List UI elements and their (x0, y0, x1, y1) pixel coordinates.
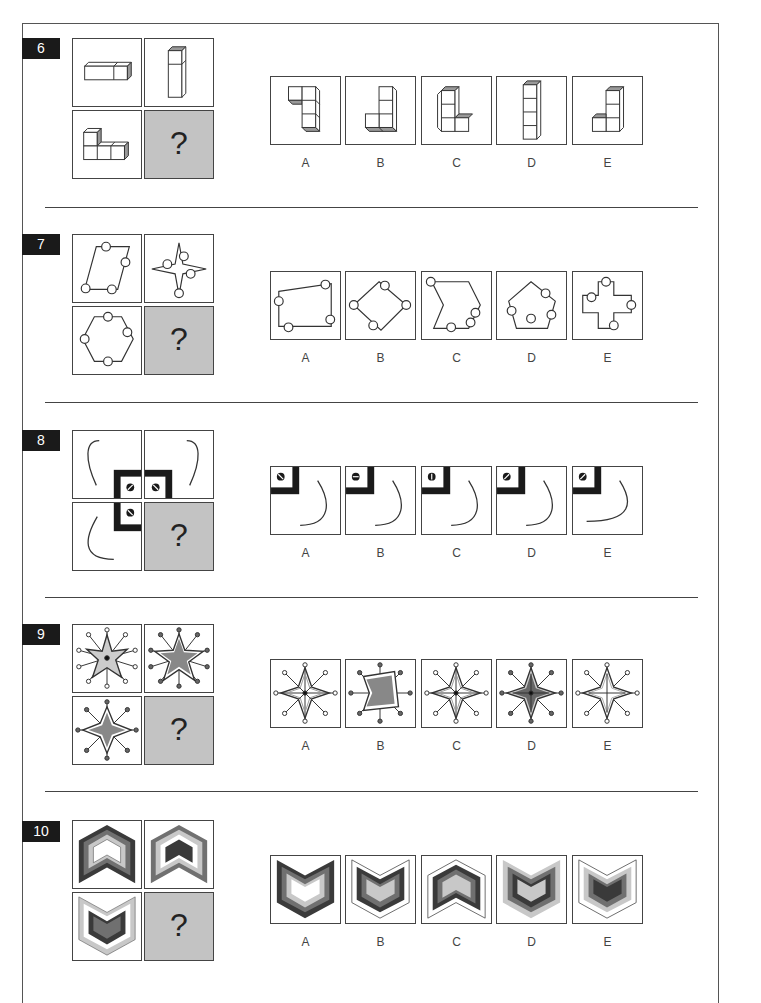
option-e-label: E (572, 739, 643, 753)
cube-j-small-icon (573, 77, 642, 144)
answer-options: A B C D (270, 855, 650, 965)
star-spokes-icon (573, 660, 642, 727)
option-a[interactable] (270, 76, 341, 145)
answer-options: A B C (270, 271, 650, 381)
question-number-badge: 7 (22, 234, 60, 255)
option-d[interactable] (496, 76, 567, 145)
option-c-label: C (421, 351, 492, 365)
curve-screw-icon (73, 503, 141, 570)
star-spokes-icon (497, 660, 566, 727)
prompt-cell-1 (72, 624, 142, 693)
option-c-label: C (421, 739, 492, 753)
option-e[interactable] (572, 271, 643, 340)
chevron-down-icon (573, 856, 642, 923)
star-spokes-icon (346, 660, 415, 727)
option-c[interactable] (421, 76, 492, 145)
option-a[interactable] (270, 271, 341, 340)
curve-screw-icon (73, 431, 141, 498)
answer-options: A B (270, 659, 650, 769)
screw-curve-icon (573, 467, 642, 534)
question-7: 7 (0, 195, 761, 390)
option-d[interactable] (496, 659, 567, 728)
option-a[interactable] (270, 659, 341, 728)
option-b-label: B (345, 351, 416, 365)
option-a[interactable] (270, 855, 341, 924)
screw-curve-icon (346, 467, 415, 534)
option-b-label: B (345, 546, 416, 560)
missing-answer-cell: ? (144, 110, 214, 179)
option-d[interactable] (496, 855, 567, 924)
option-d[interactable] (496, 466, 567, 535)
option-e[interactable] (572, 855, 643, 924)
question-8: 8 ? (0, 390, 761, 585)
option-b[interactable] (345, 659, 416, 728)
question-number-badge: 10 (22, 821, 60, 842)
cube-hook-icon (271, 77, 340, 144)
prompt-grid: ? (72, 624, 218, 767)
missing-answer-cell: ? (144, 306, 214, 375)
option-b-label: B (345, 739, 416, 753)
chevron-down-icon (271, 856, 340, 923)
cube-j-shape-icon (346, 77, 415, 144)
prompt-cell-2 (144, 234, 214, 303)
pentagon-circles-icon (497, 272, 566, 339)
option-b-label: B (345, 935, 416, 949)
question-mark: ? (145, 321, 213, 358)
option-b-label: B (345, 156, 416, 170)
prompt-cell-1 (72, 234, 142, 303)
answer-options: A B (270, 76, 650, 186)
star-spokes-icon (422, 660, 491, 727)
option-d-label: D (496, 739, 567, 753)
prompt-cell-3 (72, 502, 142, 571)
option-e-label: E (572, 156, 643, 170)
prompt-cell-1 (72, 820, 142, 889)
question-6: 6 (0, 0, 761, 195)
curve-screw-icon (145, 431, 213, 498)
option-c-label: C (421, 156, 492, 170)
option-a-label: A (270, 351, 341, 365)
option-c[interactable] (421, 855, 492, 924)
option-e-label: E (572, 351, 643, 365)
prompt-cell-2 (144, 430, 214, 499)
chevron-polygon-circles-icon (422, 272, 491, 339)
cube-l-tall-icon (422, 77, 491, 144)
chevron-down-icon (73, 893, 141, 960)
screw-curve-icon (422, 467, 491, 534)
option-c[interactable] (421, 659, 492, 728)
option-c-label: C (421, 935, 492, 949)
screw-curve-icon (497, 467, 566, 534)
option-a-label: A (270, 739, 341, 753)
star-spokes-icon (271, 660, 340, 727)
option-a[interactable] (270, 466, 341, 535)
option-e[interactable] (572, 76, 643, 145)
star-spokes-icon (145, 625, 213, 692)
option-d[interactable] (496, 271, 567, 340)
option-b[interactable] (345, 466, 416, 535)
question-number-badge: 9 (22, 624, 60, 645)
option-c[interactable] (421, 271, 492, 340)
option-c-label: C (421, 546, 492, 560)
prompt-grid: ? (72, 38, 218, 181)
star-spokes-icon (73, 625, 141, 692)
prompt-cell-2 (144, 624, 214, 693)
option-e[interactable] (572, 659, 643, 728)
prompt-grid: ? (72, 234, 218, 377)
option-a-label: A (270, 935, 341, 949)
chevron-down-icon (346, 856, 415, 923)
option-b[interactable] (345, 76, 416, 145)
cube-l-shape-icon (73, 111, 141, 178)
star-spokes-icon (73, 697, 141, 764)
option-b[interactable] (345, 855, 416, 924)
chevron-up-icon (422, 856, 491, 923)
prompt-cell-2 (144, 820, 214, 889)
question-number-badge: 8 (22, 430, 60, 451)
rhombus-circles-icon (346, 272, 415, 339)
prompt-cell-3 (72, 306, 142, 375)
option-d-label: D (496, 546, 567, 560)
option-e[interactable] (572, 466, 643, 535)
option-b[interactable] (345, 271, 416, 340)
hexagon-circles-icon (73, 307, 141, 374)
question-mark: ? (145, 125, 213, 162)
answer-options: A B C D (270, 466, 650, 576)
option-c[interactable] (421, 466, 492, 535)
